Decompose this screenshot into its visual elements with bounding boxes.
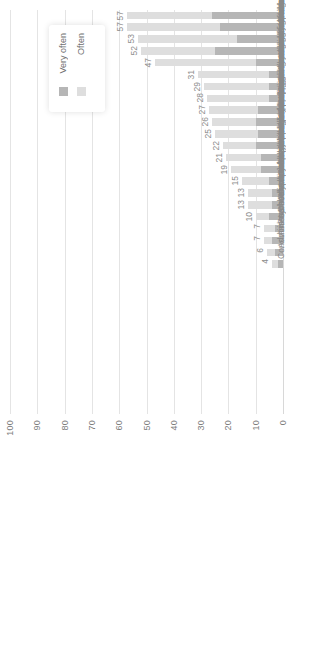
- bar-segment-often[interactable]: [138, 35, 236, 43]
- bar-segment-very-often[interactable]: [212, 12, 283, 20]
- bar-segment-often[interactable]: [264, 225, 275, 233]
- bar-row[interactable]: [0, 201, 309, 209]
- bar-row[interactable]: [0, 237, 309, 245]
- bar-segment-often[interactable]: [256, 213, 270, 221]
- bar-segment-often[interactable]: [207, 95, 270, 103]
- legend-swatch-often: [77, 87, 86, 96]
- bar-row[interactable]: [0, 35, 309, 43]
- bar-row[interactable]: [0, 118, 309, 126]
- bar-row[interactable]: [0, 130, 309, 138]
- bar-value-label: 53: [127, 34, 136, 43]
- bar-segment-often[interactable]: [226, 154, 262, 162]
- bar-segment-often[interactable]: [223, 142, 256, 150]
- bar-segment-often[interactable]: [231, 166, 261, 174]
- bar-value-label: 25: [204, 129, 213, 138]
- bar-series-area: 5757535247312928272625222119151313107764: [0, 0, 309, 670]
- bar-segment-very-often[interactable]: [220, 23, 283, 31]
- bar-value-label: 13: [237, 200, 246, 209]
- bar-segment-often[interactable]: [212, 118, 256, 126]
- bar-row[interactable]: [0, 12, 309, 20]
- bar-value-label: 27: [198, 105, 207, 114]
- bar-value-label: 7: [253, 236, 262, 241]
- bar-value-label: 21: [215, 153, 224, 162]
- bar-row[interactable]: [0, 225, 309, 233]
- bar-segment-often[interactable]: [209, 106, 258, 114]
- bar-segment-often[interactable]: [264, 237, 272, 245]
- bar-row[interactable]: [0, 23, 309, 31]
- category-label: Consult in non-behavioral health clinica…: [277, 76, 286, 259]
- bar-row[interactable]: [0, 59, 309, 67]
- bar-value-label: 22: [212, 141, 221, 150]
- bar-segment-often[interactable]: [248, 201, 273, 209]
- legend-label: Often: [76, 33, 86, 55]
- bar-segment-often[interactable]: [248, 189, 273, 197]
- bar-segment-often[interactable]: [272, 260, 278, 268]
- bar-row[interactable]: [0, 95, 309, 103]
- bar-value-label: 6: [256, 248, 265, 253]
- bar-segment-often[interactable]: [198, 71, 269, 79]
- bar-segment-often[interactable]: [215, 130, 259, 138]
- bar-value-label: 31: [187, 70, 196, 79]
- legend-label: Very often: [58, 33, 68, 74]
- bar-row[interactable]: [0, 177, 309, 185]
- bar-value-label: 7: [253, 224, 262, 229]
- bar-segment-often[interactable]: [141, 47, 215, 55]
- bar-value-label: 13: [237, 188, 246, 197]
- bar-row[interactable]: [0, 83, 309, 91]
- bar-row[interactable]: [0, 142, 309, 150]
- bar-segment-often[interactable]: [127, 23, 220, 31]
- bar-segment-often[interactable]: [155, 59, 256, 67]
- bar-segment-very-often[interactable]: [278, 260, 284, 268]
- bar-value-label: 10: [245, 212, 254, 221]
- bar-row[interactable]: [0, 154, 309, 162]
- bar-value-label: 47: [144, 58, 153, 67]
- legend-swatch-very-often: [59, 87, 68, 96]
- bar-value-label: 57: [116, 22, 125, 31]
- bar-row[interactable]: [0, 71, 309, 79]
- bar-segment-often[interactable]: [242, 177, 269, 185]
- bar-row[interactable]: [0, 166, 309, 174]
- bar-value-label: 19: [220, 165, 229, 174]
- bar-value-label: 26: [201, 117, 210, 126]
- bar-value-label: 52: [130, 46, 139, 55]
- bar-value-label: 28: [196, 93, 205, 102]
- bar-segment-often[interactable]: [204, 83, 270, 91]
- bar-value-label: 29: [193, 82, 202, 91]
- bar-row[interactable]: [0, 213, 309, 221]
- chart-legend: Very oftenOften: [49, 25, 105, 112]
- bar-value-label: 4: [261, 259, 270, 264]
- bar-segment-often[interactable]: [127, 12, 212, 20]
- bar-row[interactable]: [0, 106, 309, 114]
- bar-value-label: 15: [231, 176, 240, 185]
- stacked-bar-chart: 0102030405060708090100 57575352473129282…: [0, 0, 309, 670]
- bar-segment-very-often[interactable]: [215, 47, 283, 55]
- bar-segment-often[interactable]: [267, 249, 275, 257]
- bar-row[interactable]: [0, 189, 309, 197]
- bar-value-label: 57: [116, 11, 125, 20]
- bar-row[interactable]: [0, 47, 309, 55]
